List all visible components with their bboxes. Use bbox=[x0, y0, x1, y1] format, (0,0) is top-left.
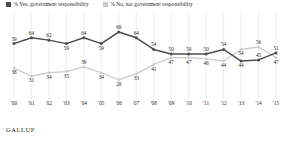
data-point bbox=[275, 51, 278, 54]
chart-container: % Yes, government responsibility % No, n… bbox=[0, 0, 290, 143]
data-point bbox=[82, 36, 85, 39]
x-axis-tick-label: '03 bbox=[63, 100, 69, 106]
x-axis-tick-label: '11 bbox=[203, 100, 209, 106]
data-label: 33 bbox=[134, 75, 140, 81]
x-axis-tick-label: '07 bbox=[133, 100, 139, 106]
data-label: 50 bbox=[204, 46, 210, 52]
data-label: 47 bbox=[186, 59, 192, 65]
data-label: 51 bbox=[273, 45, 279, 51]
data-point bbox=[170, 53, 173, 56]
data-label: 54 bbox=[221, 41, 227, 47]
data-label: 54 bbox=[238, 50, 244, 56]
x-axis-tick-label: '14 bbox=[255, 100, 261, 106]
data-label: 62 bbox=[46, 32, 52, 38]
x-axis-tick-label: '08 bbox=[151, 100, 157, 106]
x-axis-tick-label: '15 bbox=[273, 100, 279, 106]
data-label: 47 bbox=[273, 59, 279, 65]
x-axis-tick-label: '06 bbox=[116, 100, 122, 106]
square-swatch-icon bbox=[6, 2, 11, 7]
data-label: 39 bbox=[81, 59, 87, 65]
data-label: 47 bbox=[169, 59, 175, 65]
data-label: 64 bbox=[81, 30, 87, 36]
square-swatch-icon bbox=[103, 2, 108, 7]
data-label: 56 bbox=[256, 39, 262, 45]
data-label: 44 bbox=[238, 62, 244, 68]
data-label: 64 bbox=[29, 30, 35, 36]
legend-label-no: % No, not government responsibility bbox=[110, 2, 193, 7]
x-axis-tick-label: '09 bbox=[168, 100, 174, 106]
data-label: 41 bbox=[151, 66, 157, 72]
data-label: 59 bbox=[64, 45, 70, 51]
data-point bbox=[117, 30, 120, 33]
data-label: 44 bbox=[221, 62, 227, 68]
data-label: 38 bbox=[11, 69, 17, 75]
data-label: 64 bbox=[134, 30, 140, 36]
chart-legend: % Yes, government responsibility % No, n… bbox=[6, 2, 193, 7]
legend-item-yes: % Yes, government responsibility bbox=[6, 2, 89, 7]
series-line-no bbox=[14, 47, 276, 80]
data-point bbox=[47, 39, 50, 42]
legend-label-yes: % Yes, government responsibility bbox=[14, 2, 89, 7]
data-point bbox=[30, 36, 33, 39]
data-label: 46 bbox=[204, 60, 210, 66]
x-axis-tick-label: '04 bbox=[81, 100, 87, 106]
data-point bbox=[257, 58, 260, 61]
data-label: 34 bbox=[46, 74, 52, 80]
data-label: 35 bbox=[64, 73, 70, 79]
x-axis-tick-label: '10 bbox=[186, 100, 192, 106]
source-label: GALLUP bbox=[6, 126, 35, 133]
data-label: 31 bbox=[29, 77, 35, 83]
legend-item-no: % No, not government responsibility bbox=[103, 2, 193, 7]
series-line-yes bbox=[14, 32, 276, 61]
x-axis-tick-label: '05 bbox=[98, 100, 104, 106]
x-axis-tick-label: '00 bbox=[11, 100, 17, 106]
x-axis: '00'01'02'03'04'05'06'07'08'09'10'11'12'… bbox=[6, 100, 284, 112]
chart-svg: 3831343539342833414747464454564759646259… bbox=[6, 13, 284, 99]
data-label: 45 bbox=[256, 52, 262, 58]
data-label: 59 bbox=[99, 45, 105, 51]
data-label: 50 bbox=[186, 46, 192, 52]
data-point bbox=[152, 48, 155, 51]
x-axis-tick-label: '02 bbox=[46, 100, 52, 106]
data-label: 34 bbox=[99, 74, 105, 80]
data-point bbox=[257, 46, 259, 48]
data-point bbox=[187, 53, 190, 56]
data-point bbox=[135, 36, 138, 39]
data-label: 50 bbox=[169, 46, 175, 52]
data-point bbox=[222, 48, 225, 51]
x-axis-tick-label: '01 bbox=[28, 100, 34, 106]
x-axis-tick-label: '12 bbox=[220, 100, 226, 106]
data-label: 59 bbox=[11, 36, 17, 42]
data-label: 28 bbox=[116, 81, 122, 87]
data-label: 69 bbox=[116, 24, 122, 30]
line-chart-plot: 3831343539342833414747464454564759646259… bbox=[6, 13, 284, 99]
data-point bbox=[205, 53, 208, 56]
x-axis-tick-label: '13 bbox=[238, 100, 244, 106]
data-label: 54 bbox=[151, 41, 157, 47]
data-point bbox=[83, 66, 85, 68]
data-point bbox=[13, 42, 16, 45]
